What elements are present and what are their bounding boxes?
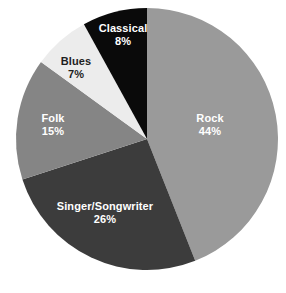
pie-chart-canvas	[0, 0, 286, 293]
pie-chart: Rock44%Singer/Songwriter26%Folk15%Blues7…	[0, 0, 286, 293]
